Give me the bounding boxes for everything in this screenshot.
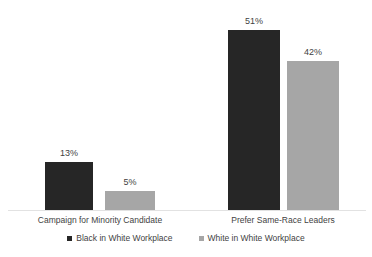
bar-g1-s2: 5% <box>105 191 155 210</box>
legend-swatch-icon <box>67 236 72 241</box>
bar-value-label: 5% <box>123 177 136 188</box>
legend-swatch-icon <box>199 236 204 241</box>
category-axis-line <box>8 210 366 211</box>
legend-item-white-in-white-workplace[interactable]: White in White Workplace <box>199 232 305 244</box>
bar-g2-s1: 51% <box>228 30 280 210</box>
bar-rect <box>228 30 280 210</box>
legend-label: White in White Workplace <box>208 232 305 244</box>
bar-g1-s1: 13% <box>45 162 93 210</box>
category-label-2: Prefer Same-Race Leaders <box>231 214 334 226</box>
legend-label: Black in White Workplace <box>76 232 172 244</box>
bar-value-label: 13% <box>60 148 78 159</box>
bar-rect <box>45 162 93 210</box>
bar-chart: 13% 5% 51% 42% Campaign for Minority Can… <box>0 0 372 257</box>
bar-value-label: 51% <box>245 16 263 27</box>
plot-area: 13% 5% 51% 42% <box>0 0 372 212</box>
bar-value-label: 42% <box>304 47 322 58</box>
category-label-1: Campaign for Minority Candidate <box>38 214 162 226</box>
bar-rect <box>287 61 339 210</box>
legend-item-black-in-white-workplace[interactable]: Black in White Workplace <box>67 232 172 244</box>
bar-rect <box>105 191 155 210</box>
bar-g2-s2: 42% <box>287 61 339 210</box>
legend: Black in White Workplace White in White … <box>0 232 372 244</box>
